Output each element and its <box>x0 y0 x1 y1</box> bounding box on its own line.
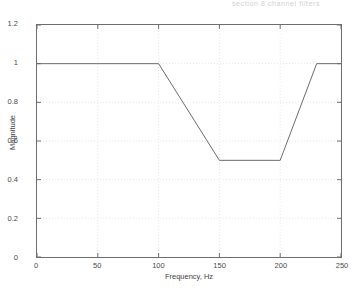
ytick-label-0: 0 <box>14 254 18 262</box>
scan-header-text: section 8 channel filters <box>232 0 344 7</box>
ytick-label-1: 1 <box>14 59 18 67</box>
x-axis-label: Frequency, Hz <box>36 272 342 281</box>
xtick-label-150: 150 <box>213 262 226 270</box>
ytick-label-0.2: 0.2 <box>8 215 18 223</box>
xtick-label-250: 250 <box>336 262 349 270</box>
ytick-label-0.4: 0.4 <box>8 176 18 184</box>
y-axis-label: Magnitude <box>8 103 17 163</box>
xtick-label-100: 100 <box>152 262 165 270</box>
data-series-line <box>37 25 341 257</box>
plot-area <box>36 24 342 258</box>
xtick-label-50: 50 <box>93 262 101 270</box>
figure-panel: section 8 channel filters 0 0.2 0.4 0.6 … <box>0 0 360 289</box>
xtick-label-200: 200 <box>275 262 288 270</box>
ytick-label-1.2: 1.2 <box>8 20 18 28</box>
xtick-label-0: 0 <box>34 262 38 270</box>
